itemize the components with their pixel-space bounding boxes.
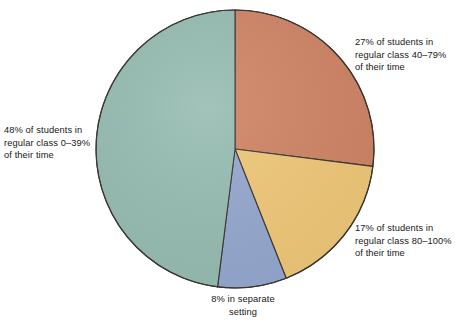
slice-label-separate-setting: 8% in separate setting bbox=[178, 293, 308, 318]
slice-label-0-39: 48% of students in regular class 0–39% o… bbox=[4, 124, 108, 162]
slice-label-40-79: 27% of students in regular class 40–79% … bbox=[355, 36, 471, 74]
pie-shading-overlay bbox=[96, 10, 374, 288]
pie-chart-figure: 48% of students in regular class 0–39% o… bbox=[0, 0, 471, 324]
slice-label-80-100: 17% of students in regular class 80–100%… bbox=[355, 222, 471, 260]
